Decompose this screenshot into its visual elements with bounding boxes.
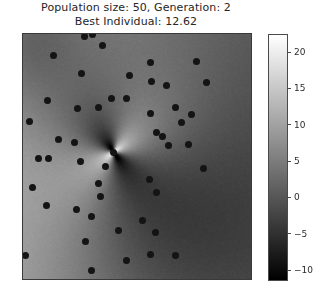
colorbar-tick-label: 0 <box>294 191 300 203</box>
colorbar-tick-mark <box>288 88 291 89</box>
colorbar-tick-layer: 20151050−5−10 <box>268 34 326 281</box>
colorbar-tick-mark <box>288 233 291 234</box>
colorbar-tick-label: −10 <box>294 264 313 276</box>
colorbar-tick-label: 5 <box>294 155 300 167</box>
matplotlib-figure: Population size: 50, Generation: 2 Best … <box>0 0 327 293</box>
heatmap-axes <box>22 33 252 280</box>
colorbar-tick-label: −5 <box>294 228 307 240</box>
plot-title-line-1: Population size: 50, Generation: 2 <box>0 1 272 15</box>
colorbar-tick-label: 15 <box>294 82 305 94</box>
plot-title-line-2: Best Individual: 12.62 <box>0 15 272 29</box>
colorbar-tick-mark <box>288 197 291 198</box>
colorbar-tick-mark <box>288 124 291 125</box>
colorbar-tick-mark <box>288 270 291 271</box>
colorbar-tick-mark <box>288 161 291 162</box>
colorbar-tick-label: 20 <box>294 46 305 58</box>
heatmap-image <box>23 34 251 279</box>
colorbar-tick-label: 10 <box>294 119 305 131</box>
plot-title: Population size: 50, Generation: 2 Best … <box>0 1 272 29</box>
colorbar-tick-mark <box>288 52 291 53</box>
